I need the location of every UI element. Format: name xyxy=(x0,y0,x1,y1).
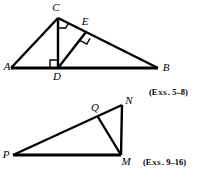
caption-top-smallcaps: XS xyxy=(158,89,167,96)
vertex-label-N: N xyxy=(124,94,133,106)
vertex-label-M: M xyxy=(120,155,131,167)
vertex-label-A: A xyxy=(3,60,11,72)
caption-bottom-group: (E XS . 9–16) xyxy=(143,157,186,167)
vertex-label-P: P xyxy=(2,148,10,160)
vertex-label-B: B xyxy=(163,61,170,73)
caption-top-group: (E XS . 5–8) xyxy=(149,87,188,97)
segment-DE xyxy=(58,32,86,68)
caption-bottom-smallcaps: XS xyxy=(152,159,161,166)
caption-top-suffix: . 5–8) xyxy=(168,87,188,97)
vertex-label-D: D xyxy=(52,70,61,82)
segment-side-MN xyxy=(121,105,122,155)
caption-bottom-suffix: . 9–16) xyxy=(162,157,186,167)
vertex-label-Q: Q xyxy=(91,101,99,113)
geometry-figure-page: A B C D E (E XS . 5–8) P M N Q xyxy=(0,0,201,177)
caption-bottom-prefix: (E xyxy=(143,157,152,167)
right-angle-mark-at-C xyxy=(58,23,68,28)
figure-top-group: A B C D E xyxy=(3,1,170,82)
vertex-label-E: E xyxy=(81,15,89,27)
figure-bottom-group: P M N Q xyxy=(2,94,134,167)
geometry-diagram-canvas: A B C D E (E XS . 5–8) P M N Q xyxy=(0,0,201,177)
vertex-label-C: C xyxy=(52,1,60,13)
segment-side-CB xyxy=(58,18,158,68)
caption-top-prefix: (E xyxy=(149,87,158,97)
segment-cevian-QM xyxy=(98,117,121,155)
